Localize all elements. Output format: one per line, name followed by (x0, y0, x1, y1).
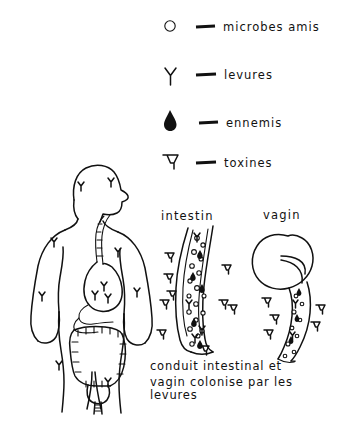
neck-left (65, 219, 78, 230)
circle-icon (195, 286, 200, 291)
tack-t-icon (270, 315, 279, 324)
caption-line-3: levures (150, 388, 198, 402)
ascending-colon (70, 330, 110, 386)
tack-t-icon (163, 155, 178, 169)
circle-icon (283, 354, 287, 358)
legend-row-ennemis: ennemis (164, 110, 282, 131)
circle-icon (290, 326, 294, 330)
circle-icon (190, 342, 194, 346)
tack-t-icon (157, 330, 166, 339)
tack-t-icon (219, 300, 228, 309)
y-fork-icon (92, 291, 98, 300)
legend-dash (196, 26, 215, 27)
circle-icon (187, 294, 191, 298)
legend-label-levures: levures (224, 68, 273, 82)
teardrop-icon (190, 272, 196, 281)
head-outline (74, 165, 129, 222)
teardrop-icon (197, 340, 203, 349)
duodenum (79, 305, 113, 324)
stomach-outline (84, 262, 122, 311)
legend-dash (199, 122, 218, 123)
y-fork-icon (186, 300, 192, 309)
caption: conduit intestinal et vagin colonise par… (150, 359, 293, 402)
legend-dash (196, 74, 216, 75)
illustration-page: microbes amis levures ennemis toxines (0, 0, 352, 433)
teardrop-icon (295, 314, 300, 322)
teardrop-icon (297, 288, 302, 296)
legend-row-toxines: toxines (163, 155, 273, 170)
y-fork-icon (165, 68, 176, 85)
human-body-figure (31, 165, 152, 414)
circle-icon (292, 350, 296, 354)
right-hand (124, 314, 145, 345)
caption-line-2: vagin colonise par les (150, 375, 293, 389)
circle-icon (187, 310, 191, 314)
tack-t-icon (311, 322, 320, 331)
uterus-outline (252, 234, 313, 289)
circle-icon (292, 310, 296, 314)
tack-t-icon (165, 253, 174, 262)
tack-t-icon (167, 291, 176, 300)
tack-t-icon (264, 330, 273, 339)
tack-t-icon (316, 305, 325, 314)
tack-t-icon (222, 265, 231, 274)
circle-icon (201, 243, 205, 247)
y-fork-icon (108, 178, 114, 187)
legend-row-microbes-amis: microbes amis (165, 20, 320, 34)
colon-haustra (72, 327, 126, 387)
legend-block: microbes amis levures ennemis toxines (163, 20, 320, 170)
y-fork-icon (56, 361, 62, 370)
teardrop-icon (164, 110, 177, 131)
tack-t-icon (262, 298, 271, 307)
caption-line-1: conduit intestinal et (150, 359, 282, 373)
legend-label-toxines: toxines (224, 156, 273, 170)
vaginal-wall-left (278, 288, 292, 359)
esophagus-left-wall (96, 216, 104, 262)
circle-icon (197, 271, 201, 275)
intestine-cross-section: intestin (157, 209, 237, 355)
vagina-cross-section: vagin (252, 208, 325, 362)
legend-label-ennemis: ennemis (226, 116, 282, 130)
y-fork-icon (134, 288, 140, 297)
circle-icon (192, 250, 197, 255)
tack-t-icon (160, 300, 169, 309)
circle-icon (201, 311, 205, 315)
jaw-neck-left (74, 200, 78, 219)
microbe-colony-vagina (283, 294, 304, 358)
intestine-bottom (191, 352, 213, 354)
uterine-cavity-upper (281, 256, 305, 274)
circle-icon (188, 327, 193, 332)
circle-icon (202, 294, 206, 298)
legend-dash (196, 162, 216, 163)
intestine-label: intestin (161, 209, 214, 223)
drawing-canvas: microbes amis levures ennemis toxines (0, 0, 352, 433)
circle-icon (194, 302, 199, 307)
tack-t-icon (164, 274, 173, 283)
circle-icon (295, 334, 299, 338)
legend-row-levures: levures (165, 68, 273, 85)
teardrop-icon (197, 250, 203, 259)
legend-label-microbes-amis: microbes amis (223, 20, 320, 34)
y-fork-icon (293, 300, 298, 308)
uterine-cavity-lower (281, 260, 302, 283)
circle-icon (165, 21, 175, 31)
y-fork-icon (51, 238, 57, 247)
circle-icon (190, 264, 195, 269)
y-fork-icon (101, 282, 107, 291)
circle-icon (300, 302, 304, 306)
left-hand (38, 312, 59, 343)
tack-t-icon (228, 305, 237, 314)
y-fork-icon (105, 294, 111, 303)
vagina-label: vagin (263, 208, 301, 222)
y-fork-icon (78, 182, 84, 191)
left-arm-inner (58, 247, 63, 312)
y-fork-icon (39, 292, 45, 301)
